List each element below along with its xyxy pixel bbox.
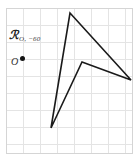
rotation-label: ℛO, −60 — [9, 29, 40, 43]
rotation-figure: ℛO, −60 O — [0, 0, 137, 157]
script-r-symbol: ℛ — [9, 28, 19, 42]
center-point-dot — [20, 56, 25, 61]
polygon-layer — [0, 0, 137, 157]
center-point-label: O — [11, 57, 18, 67]
dart-polygon — [51, 13, 131, 128]
rotation-subscript: O, −60 — [19, 35, 40, 43]
